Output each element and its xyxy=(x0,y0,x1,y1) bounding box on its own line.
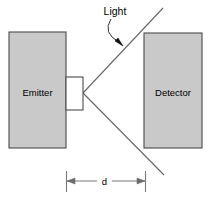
dimension-arrowhead-right-icon xyxy=(137,178,145,184)
light-callout-arrowhead-icon xyxy=(115,38,123,46)
emitter-detector-diagram: Emitter Detector Light d xyxy=(0,0,211,201)
detector-block: Detector xyxy=(144,33,202,148)
light-callout: Light xyxy=(104,5,127,46)
distance-dimension: d xyxy=(67,171,146,192)
distance-dimension-label: d xyxy=(102,176,107,187)
detector-block-label: Detector xyxy=(155,87,191,98)
light-callout-label: Light xyxy=(104,5,127,17)
emitter-block-label: Emitter xyxy=(22,87,52,98)
dimension-arrowhead-left-icon xyxy=(67,178,75,184)
emitter-block: Emitter xyxy=(9,32,66,148)
diagram-canvas: Emitter Detector Light d xyxy=(0,0,211,201)
emitter-aperture xyxy=(66,77,83,110)
